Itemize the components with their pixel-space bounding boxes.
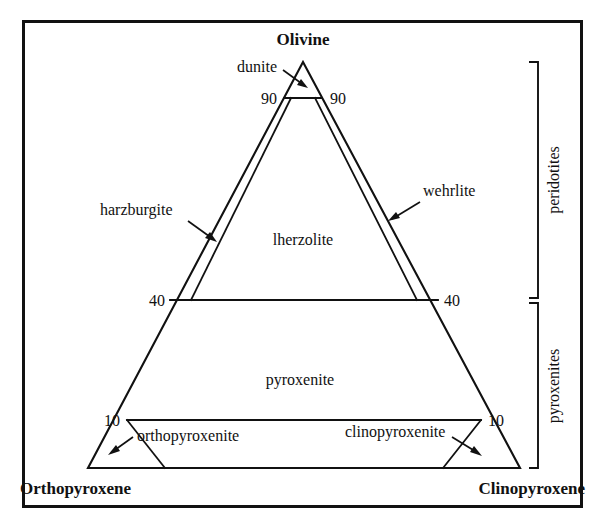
tick-label-90-left: 90 [261,90,277,107]
bracket-label-peridotites: peridotites [545,146,563,214]
tick-label-10-left: 10 [104,412,120,429]
apex-label-clinopyroxene: Clinopyroxene [479,479,586,498]
apex-label-olivine: Olivine [277,30,330,49]
field-label-pyroxenite: pyroxenite [266,371,334,389]
field-label-lherzolite: lherzolite [273,231,333,248]
tick-label-90-right: 90 [330,90,346,107]
bracket-label-pyroxenites: pyroxenites [545,349,563,424]
figure-root: Olivine Orthopyroxene Clinopyroxene 90 9… [0,0,605,527]
field-label-harzburgite: harzburgite [100,201,173,219]
ternary-diagram: Olivine Orthopyroxene Clinopyroxene 90 9… [0,0,605,527]
field-label-orthopyroxenite: orthopyroxenite [137,427,239,445]
tick-label-10-right: 10 [488,412,504,429]
tick-label-40-right: 40 [444,292,460,309]
apex-label-orthopyroxene: Orthopyroxene [20,479,132,498]
field-label-dunite: dunite [237,58,277,75]
tick-label-40-left: 40 [149,292,165,309]
field-label-wehrlite: wehrlite [423,182,475,199]
field-label-clinopyroxenite: clinopyroxenite [345,423,445,441]
